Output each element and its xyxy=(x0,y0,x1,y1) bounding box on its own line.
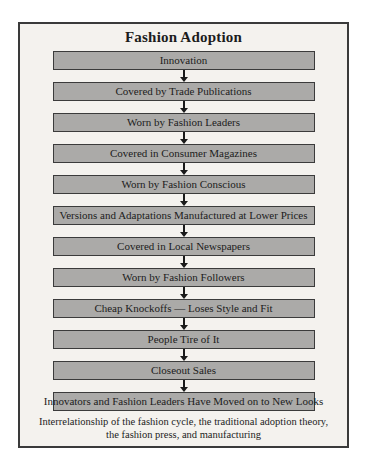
down-arrow-icon xyxy=(180,380,188,392)
flow-step: Cheap Knockoffs — Loses Style and Fit xyxy=(53,299,315,318)
flow-step: Covered by Trade Publications xyxy=(53,82,315,101)
flow-step-label: Innovation xyxy=(160,55,208,66)
flow-step: People Tire of It xyxy=(53,330,315,349)
flow-step-label: Covered in Local Newspapers xyxy=(117,241,250,252)
flow-step-label: Innovators and Fashion Leaders Have Move… xyxy=(44,396,324,407)
down-arrow-icon xyxy=(180,194,188,206)
flow-step: Innovation xyxy=(53,51,315,70)
flow-step-label: People Tire of It xyxy=(148,334,220,345)
down-arrow-icon xyxy=(180,70,188,82)
flow-step-label: Covered in Consumer Magazines xyxy=(110,148,257,159)
flow-step: Worn by Fashion Leaders xyxy=(53,113,315,132)
figure-caption-line2: the fashion press, and manufacturing xyxy=(20,429,347,442)
flow-step: Covered in Consumer Magazines xyxy=(53,144,315,163)
figure-caption: Interrelationship of the fashion cycle, … xyxy=(20,416,347,441)
flow-step-label: Worn by Fashion Followers xyxy=(122,272,244,283)
flow-step-label: Worn by Fashion Conscious xyxy=(121,179,245,190)
flow-step-label: Closeout Sales xyxy=(151,365,216,376)
diagram-title: Fashion Adoption xyxy=(20,24,347,46)
down-arrow-icon xyxy=(180,132,188,144)
down-arrow-icon xyxy=(180,287,188,299)
down-arrow-icon xyxy=(180,318,188,330)
down-arrow-icon xyxy=(180,256,188,268)
flow-step: Innovators and Fashion Leaders Have Move… xyxy=(53,392,315,411)
flowchart: Innovation Covered by Trade Publications… xyxy=(20,51,347,411)
flow-step-label: Covered by Trade Publications xyxy=(116,86,252,97)
flow-step-label: Cheap Knockoffs — Loses Style and Fit xyxy=(94,303,272,314)
flow-step: Closeout Sales xyxy=(53,361,315,380)
flow-step: Versions and Adaptations Manufactured at… xyxy=(53,206,315,225)
down-arrow-icon xyxy=(180,163,188,175)
flow-step: Worn by Fashion Conscious xyxy=(53,175,315,194)
down-arrow-icon xyxy=(180,101,188,113)
figure-caption-line1: Interrelationship of the fashion cycle, … xyxy=(20,416,347,429)
down-arrow-icon xyxy=(180,225,188,237)
flow-step: Covered in Local Newspapers xyxy=(53,237,315,256)
diagram-panel: Fashion Adoption Innovation Covered by T… xyxy=(18,22,349,448)
flow-step-label: Versions and Adaptations Manufactured at… xyxy=(59,210,307,221)
flow-step-label: Worn by Fashion Leaders xyxy=(127,117,240,128)
down-arrow-icon xyxy=(180,349,188,361)
flow-step: Worn by Fashion Followers xyxy=(53,268,315,287)
